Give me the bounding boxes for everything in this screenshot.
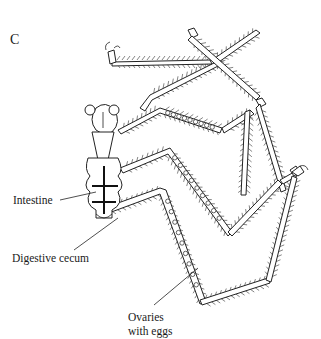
egg bbox=[178, 163, 182, 167]
label-intestine: Intestine bbox=[13, 194, 53, 207]
seta bbox=[249, 133, 253, 136]
seta bbox=[248, 159, 252, 162]
seta bbox=[117, 56, 120, 60]
seta bbox=[142, 56, 145, 60]
seta bbox=[157, 56, 160, 60]
seta bbox=[247, 174, 251, 177]
seta bbox=[255, 37, 260, 39]
egg bbox=[166, 111, 170, 115]
cecum-leader-line bbox=[74, 218, 118, 250]
ovary-eggs bbox=[166, 111, 222, 287]
egg bbox=[199, 121, 203, 125]
seta bbox=[184, 113, 188, 116]
seta bbox=[187, 56, 190, 60]
label-ovaries-line2: with eggs bbox=[128, 324, 172, 338]
seta bbox=[208, 121, 212, 124]
seta bbox=[177, 76, 178, 81]
seta bbox=[192, 56, 195, 60]
label-digestive-cecum: Digestive cecum bbox=[12, 252, 89, 265]
seta bbox=[246, 190, 250, 193]
seta bbox=[247, 169, 251, 172]
seta bbox=[177, 169, 178, 174]
egg bbox=[180, 241, 184, 245]
egg bbox=[173, 220, 177, 224]
seta bbox=[127, 56, 130, 60]
seta bbox=[194, 116, 198, 119]
label-ovaries-with-eggs: Ovaries with eggs bbox=[128, 310, 172, 338]
ovaries-leader-line bbox=[154, 268, 198, 305]
egg bbox=[217, 216, 221, 220]
seta bbox=[170, 108, 174, 111]
seta bbox=[158, 86, 159, 91]
seta bbox=[162, 56, 165, 60]
seta bbox=[247, 180, 251, 183]
seta bbox=[167, 56, 170, 60]
seta bbox=[154, 88, 155, 93]
seta bbox=[218, 124, 222, 127]
seta bbox=[249, 128, 253, 131]
seta bbox=[165, 107, 169, 110]
seta bbox=[197, 39, 202, 40]
seta bbox=[248, 148, 252, 151]
seta bbox=[248, 154, 252, 157]
seta bbox=[174, 165, 175, 170]
seta bbox=[202, 56, 205, 60]
egg bbox=[200, 193, 204, 197]
seta bbox=[249, 122, 253, 125]
egg bbox=[177, 114, 181, 118]
egg bbox=[171, 112, 175, 116]
seta bbox=[182, 74, 183, 79]
seta bbox=[177, 56, 180, 60]
seta bbox=[172, 79, 173, 84]
seta bbox=[171, 160, 172, 165]
seta bbox=[204, 119, 208, 122]
seta bbox=[147, 56, 150, 60]
body bbox=[85, 104, 122, 218]
seta bbox=[209, 50, 214, 51]
egg bbox=[184, 171, 188, 175]
seta bbox=[186, 72, 187, 77]
seta bbox=[180, 111, 184, 114]
seta bbox=[196, 67, 197, 72]
egg bbox=[188, 118, 192, 122]
seta bbox=[137, 56, 140, 60]
seta bbox=[184, 177, 185, 182]
egg bbox=[206, 201, 210, 205]
seta bbox=[172, 56, 175, 60]
seta bbox=[213, 122, 217, 125]
egg bbox=[173, 156, 177, 160]
seta bbox=[213, 53, 218, 54]
egg bbox=[166, 199, 170, 203]
seta bbox=[197, 56, 200, 60]
seta bbox=[205, 46, 210, 47]
seta bbox=[168, 156, 169, 161]
egg bbox=[195, 186, 199, 190]
seta bbox=[163, 83, 164, 88]
seta bbox=[132, 56, 135, 60]
egg bbox=[211, 208, 215, 212]
seta bbox=[152, 56, 155, 60]
egg bbox=[189, 178, 193, 182]
egg bbox=[183, 251, 187, 255]
egg bbox=[193, 120, 197, 124]
sea-spider-illustration bbox=[0, 0, 321, 339]
egg bbox=[194, 283, 198, 287]
egg bbox=[169, 209, 173, 213]
egg bbox=[210, 125, 214, 129]
leg-1 bbox=[106, 28, 261, 111]
seta bbox=[155, 106, 156, 111]
egg bbox=[182, 116, 186, 120]
seta bbox=[182, 56, 185, 60]
seta bbox=[122, 56, 125, 60]
seta bbox=[201, 43, 206, 44]
seta bbox=[247, 164, 251, 167]
seta bbox=[180, 173, 181, 178]
seta bbox=[249, 138, 253, 141]
seta bbox=[191, 69, 192, 74]
seta bbox=[168, 81, 169, 86]
seta bbox=[248, 143, 252, 146]
seta bbox=[199, 118, 203, 121]
egg bbox=[204, 123, 208, 127]
leg-2 bbox=[118, 98, 286, 195]
seta bbox=[200, 65, 201, 70]
